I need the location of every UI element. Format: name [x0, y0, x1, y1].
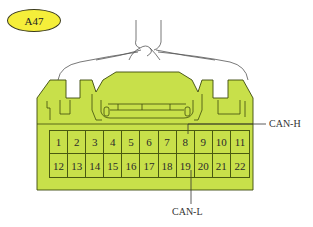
connector-id: A47 — [25, 15, 44, 27]
pin-5: 5 — [122, 131, 140, 154]
pin-10: 10 — [213, 131, 231, 154]
pin-4: 4 — [104, 131, 122, 154]
pin-19: 19 — [177, 154, 195, 177]
pin-16: 16 — [122, 154, 140, 177]
pin-grid: 1 2 3 4 5 6 7 8 9 10 11 12 13 14 15 16 1… — [49, 130, 250, 178]
pin-8: 8 — [177, 131, 195, 154]
connector-drawing — [0, 0, 313, 227]
pin-15: 15 — [104, 154, 122, 177]
pin-20: 20 — [195, 154, 213, 177]
pin-3: 3 — [86, 131, 104, 154]
pin-6: 6 — [140, 131, 158, 154]
pin-13: 13 — [68, 154, 86, 177]
pin-7: 7 — [159, 131, 177, 154]
pin-21: 21 — [213, 154, 231, 177]
can-h-label: CAN-H — [269, 118, 301, 129]
pin-12: 12 — [50, 154, 68, 177]
pin-9: 9 — [195, 131, 213, 154]
can-l-label: CAN-L — [172, 206, 203, 217]
pin-17: 17 — [140, 154, 158, 177]
pin-1: 1 — [50, 131, 68, 154]
pin-22: 22 — [231, 154, 249, 177]
connector-id-tag: A47 — [7, 9, 61, 32]
pin-14: 14 — [86, 154, 104, 177]
connector-diagram: A47 1 2 3 4 5 6 7 8 9 10 11 12 13 14 15 … — [0, 0, 313, 227]
pin-18: 18 — [159, 154, 177, 177]
wire-harness-icon — [58, 20, 248, 80]
pin-11: 11 — [231, 131, 249, 154]
pin-2: 2 — [68, 131, 86, 154]
